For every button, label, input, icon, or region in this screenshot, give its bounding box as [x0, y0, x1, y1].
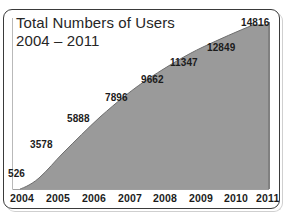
data-label-2011: 14816 [241, 17, 269, 28]
figure-screenshot: Total Numbers of Users 2004 – 2011 526 3… [0, 0, 287, 216]
x-tick-2004: 2004 [10, 192, 34, 204]
data-label-2005: 3578 [30, 139, 53, 150]
x-tick-2011: 2011 [256, 192, 280, 204]
data-label-2007: 7896 [105, 92, 128, 103]
chart-title-line-1: Total Numbers of Users [16, 14, 175, 32]
chart-title: Total Numbers of Users 2004 – 2011 [16, 14, 175, 51]
data-label-2008: 9662 [141, 74, 164, 85]
x-tick-2009: 2009 [189, 192, 213, 204]
x-tick-2005: 2005 [46, 192, 70, 204]
data-label-2009: 11347 [170, 57, 198, 68]
chart-title-line-2: 2004 – 2011 [16, 32, 175, 50]
data-label-2006: 5888 [67, 113, 90, 124]
data-label-2004: 526 [8, 168, 25, 179]
x-tick-2008: 2008 [153, 192, 177, 204]
x-tick-2006: 2006 [82, 192, 106, 204]
x-tick-2007: 2007 [118, 192, 142, 204]
data-label-2010: 12849 [207, 42, 235, 53]
x-tick-2010: 2010 [224, 192, 248, 204]
